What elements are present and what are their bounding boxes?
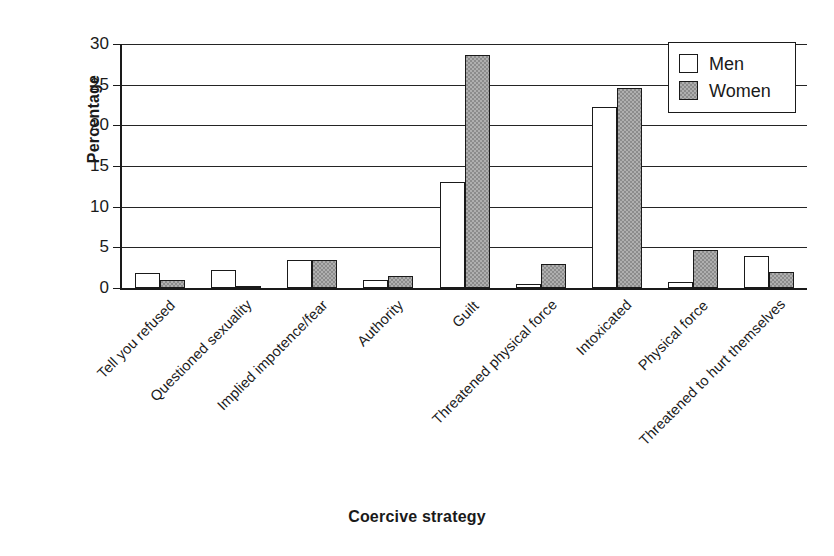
bar-men (516, 284, 541, 288)
x-axis-category-labels: Tell you refusedQuestioned sexualityImpl… (120, 292, 820, 482)
y-tick-mark (113, 207, 122, 208)
x-axis-label: Authority (354, 297, 406, 349)
bar-men (592, 107, 617, 288)
bar-group (440, 44, 490, 288)
y-tick-label: 10 (90, 197, 109, 217)
legend-swatch-men (679, 54, 698, 73)
bar-men (287, 260, 312, 288)
y-tick-label: 20 (90, 115, 109, 135)
bar-men (668, 282, 693, 289)
y-tick-label: 30 (90, 34, 109, 54)
y-tick-mark (113, 85, 122, 86)
bar-women (160, 280, 185, 288)
bar-group (135, 44, 185, 288)
x-axis-label: Threatened to hurt themselves (636, 296, 788, 448)
y-tick-label: 25 (90, 75, 109, 95)
legend-swatch-women (679, 81, 698, 100)
x-axis-label: Threatened physical force (429, 296, 560, 427)
bar-women (541, 264, 566, 288)
bar-men (744, 256, 769, 288)
y-tick-mark (113, 288, 122, 289)
bar-women (236, 286, 261, 288)
legend-label: Men (709, 55, 744, 73)
chart-legend: MenWomen (668, 42, 796, 113)
y-tick-label: 0 (100, 278, 109, 298)
bar-women (617, 88, 642, 288)
x-axis-label: Physical force (635, 297, 711, 373)
y-tick-mark (113, 125, 122, 126)
legend-item: Women (679, 77, 786, 104)
bar-men (440, 182, 465, 288)
bar-group (287, 44, 337, 288)
x-axis-label: Tell you refused (94, 297, 178, 381)
bar-men (363, 280, 388, 288)
y-tick-label: 5 (100, 237, 109, 257)
bar-group (211, 44, 261, 288)
bar-women (693, 250, 718, 288)
bar-women (312, 260, 337, 288)
bar-women (388, 276, 413, 288)
bar-group (592, 44, 642, 288)
bar-chart: Percentage 051015202530 Tell you refused… (0, 0, 834, 556)
y-tick-mark (113, 166, 122, 167)
y-tick-mark (113, 247, 122, 248)
x-axis-label: Guilt (449, 298, 482, 331)
legend-label: Women (709, 82, 771, 100)
bar-group (516, 44, 566, 288)
y-tick-mark (113, 44, 122, 45)
y-tick-label: 15 (90, 156, 109, 176)
x-axis-label: Intoxicated (573, 297, 635, 359)
x-axis-title: Coercive strategy (0, 508, 834, 526)
bar-men (211, 270, 236, 288)
bar-group (363, 44, 413, 288)
legend-item: Men (679, 50, 786, 77)
bar-women (769, 272, 794, 288)
bar-women (465, 55, 490, 288)
bar-men (135, 273, 160, 288)
